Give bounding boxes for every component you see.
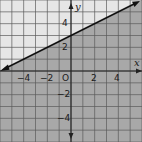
coordinate-plane: x y O −4 −2 2 4 4 2 −2 −4 bbox=[0, 0, 142, 142]
x-axis-label: x bbox=[134, 57, 140, 68]
y-tick-label: 2 bbox=[62, 42, 68, 52]
x-tick-label: −2 bbox=[40, 73, 53, 83]
x-tick-label: −4 bbox=[17, 73, 31, 83]
x-tick-label: 2 bbox=[91, 73, 97, 83]
y-tick-label: −2 bbox=[57, 89, 70, 99]
origin-label: O bbox=[62, 73, 69, 83]
y-tick-label: −4 bbox=[57, 113, 71, 123]
inequality-graph: x y O −4 −2 2 4 4 2 −2 −4 bbox=[0, 0, 142, 142]
y-axis-label: y bbox=[74, 1, 81, 12]
x-tick-label: 4 bbox=[114, 73, 120, 83]
y-tick-label: 4 bbox=[62, 18, 68, 28]
